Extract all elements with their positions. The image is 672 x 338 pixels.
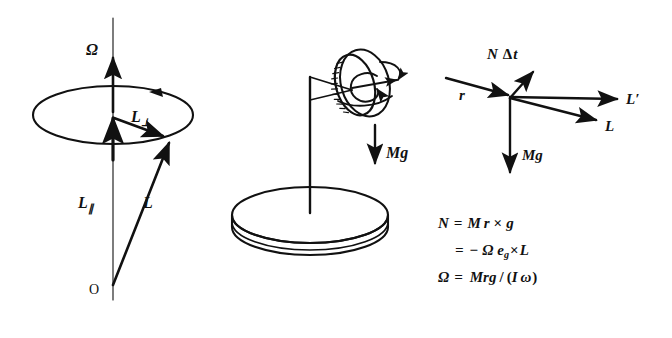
equation-torque-alt: =−Ωeg×L: [455, 242, 529, 260]
label-omega-axis: Ω: [86, 41, 98, 58]
label-l-prime: L′: [625, 91, 639, 107]
panel-middle-top: Mg: [232, 44, 408, 255]
label-r-vector: r: [459, 87, 465, 103]
label-l-old: L: [604, 118, 614, 134]
r-vector-arrow: [446, 78, 508, 95]
panel-right-vectors: NΔt r L′ L Mg: [446, 46, 639, 172]
l-prime-vector-arrow: [510, 97, 617, 99]
equation-torque: N=Mr×g: [437, 215, 514, 231]
label-torque-impulse: NΔt: [486, 46, 518, 62]
flywheel-outer-disk: [333, 44, 398, 123]
equation-precession-rate: Ω=Mrg/(Iω): [438, 269, 537, 286]
l-total-vector-arrow: [113, 143, 169, 285]
label-weight-right: Mg: [521, 147, 543, 163]
label-weight-middle: Mg: [385, 144, 408, 162]
label-l-total: L: [142, 194, 153, 211]
label-origin-o: O: [89, 282, 99, 297]
figure-canvas: Ω L⊥ L∥ L O: [0, 0, 672, 338]
l-vector-arrow: [510, 98, 596, 120]
equations-block: N=Mr×g =−Ωeg×L Ω=Mrg/(Iω): [437, 215, 537, 286]
figure-root: Ω L⊥ L∥ L O: [0, 0, 672, 338]
base-disk-side-wall: [232, 215, 388, 255]
torque-impulse-vector-arrow: [510, 72, 533, 98]
label-l-parallel: L∥: [77, 194, 95, 215]
panel-left-cone: Ω L⊥ L∥ L O: [33, 18, 193, 300]
